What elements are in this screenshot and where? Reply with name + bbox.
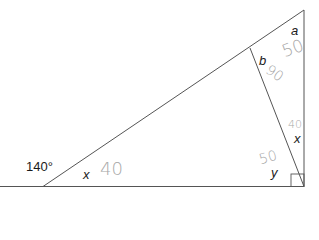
angle-x-right-label: x [294,132,301,145]
angle-b-label: b [259,54,266,67]
answer-x-right: 40 [288,119,302,130]
exterior-angle-label: 140° [26,160,53,173]
angle-x-left-label: x [83,168,90,181]
answer-x-left: 40 [100,160,123,178]
angle-y-label: y [271,166,278,179]
